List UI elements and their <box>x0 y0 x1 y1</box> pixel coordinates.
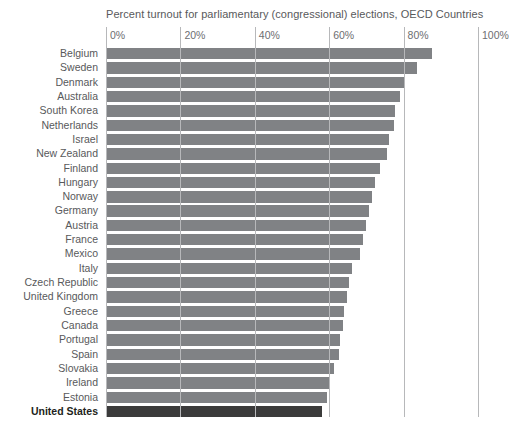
bar-track <box>106 363 531 374</box>
tick-label-80pct: 80% <box>404 29 429 41</box>
category-label-spain: Spain <box>0 349 98 360</box>
bar-row: Belgium <box>0 48 531 62</box>
bar-row: United Kingdom <box>0 291 531 305</box>
bar-row: Sweden <box>0 62 531 76</box>
chart-title: Percent turnout for parliamentary (congr… <box>106 7 483 21</box>
bar-spain <box>106 349 339 360</box>
bar-rows: BelgiumSwedenDenmarkAustraliaSouth Korea… <box>0 48 531 420</box>
bar-track <box>106 377 531 388</box>
bar-row: South Korea <box>0 105 531 119</box>
category-label-norway: Norway <box>0 191 98 202</box>
bar-track <box>106 62 531 73</box>
bar-track <box>106 320 531 331</box>
bar-track <box>106 277 531 288</box>
bar-netherlands <box>106 120 394 131</box>
bar-row: Australia <box>0 91 531 105</box>
bar-greece <box>106 306 344 317</box>
category-label-australia: Australia <box>0 91 98 102</box>
category-label-greece: Greece <box>0 306 98 317</box>
tick-label-60pct: 60% <box>329 29 354 41</box>
bar-portugal <box>106 334 340 345</box>
bar-sweden <box>106 62 417 73</box>
category-label-czech-republic: Czech Republic <box>0 277 98 288</box>
bar-row: Spain <box>0 349 531 363</box>
bar-track <box>106 48 531 59</box>
bar-row: Austria <box>0 220 531 234</box>
category-label-israel: Israel <box>0 134 98 145</box>
bar-estonia <box>106 392 327 403</box>
tick-label-20pct: 20% <box>180 29 205 41</box>
bar-track <box>106 392 531 403</box>
bar-israel <box>106 134 389 145</box>
bar-row: Netherlands <box>0 120 531 134</box>
tick-label-40pct: 40% <box>255 29 280 41</box>
bar-canada <box>106 320 343 331</box>
category-label-austria: Austria <box>0 220 98 231</box>
category-label-mexico: Mexico <box>0 248 98 259</box>
bar-row: Finland <box>0 163 531 177</box>
category-label-belgium: Belgium <box>0 48 98 59</box>
bar-track <box>106 148 531 159</box>
bar-finland <box>106 163 380 174</box>
bar-track <box>106 263 531 274</box>
bar-slovakia <box>106 363 334 374</box>
bar-denmark <box>106 77 405 88</box>
bar-row: Canada <box>0 320 531 334</box>
bar-austria <box>106 220 366 231</box>
bar-italy <box>106 263 352 274</box>
bar-track <box>106 349 531 360</box>
category-label-denmark: Denmark <box>0 77 98 88</box>
category-label-united-states: United States <box>0 406 98 417</box>
bar-row: Greece <box>0 306 531 320</box>
chart-container: Percent turnout for parliamentary (congr… <box>0 0 531 431</box>
bar-track <box>106 234 531 245</box>
category-label-united-kingdom: United Kingdom <box>0 291 98 302</box>
bar-row: Ireland <box>0 377 531 391</box>
category-label-germany: Germany <box>0 205 98 216</box>
bar-track <box>106 248 531 259</box>
bar-new-zealand <box>106 148 387 159</box>
bar-row: Slovakia <box>0 363 531 377</box>
category-label-slovakia: Slovakia <box>0 363 98 374</box>
bar-row: Mexico <box>0 248 531 262</box>
bar-row: Estonia <box>0 392 531 406</box>
category-label-italy: Italy <box>0 263 98 274</box>
bar-row: Denmark <box>0 77 531 91</box>
bar-track <box>106 205 531 216</box>
bar-united-states <box>106 406 322 417</box>
bar-track <box>106 191 531 202</box>
bar-row: Italy <box>0 263 531 277</box>
category-label-portugal: Portugal <box>0 334 98 345</box>
bar-hungary <box>106 177 375 188</box>
bar-track <box>106 306 531 317</box>
bar-track <box>106 334 531 345</box>
category-label-france: France <box>0 234 98 245</box>
bar-row: Norway <box>0 191 531 205</box>
bar-track <box>106 220 531 231</box>
bar-track <box>106 177 531 188</box>
bar-track <box>106 105 531 116</box>
bar-czech-republic <box>106 277 349 288</box>
bar-track <box>106 163 531 174</box>
category-label-canada: Canada <box>0 320 98 331</box>
bar-track <box>106 120 531 131</box>
bar-south-korea <box>106 105 395 116</box>
bar-row: Germany <box>0 205 531 219</box>
bar-row: Hungary <box>0 177 531 191</box>
bar-australia <box>106 91 400 102</box>
bar-row: New Zealand <box>0 148 531 162</box>
bar-ireland <box>106 377 330 388</box>
category-label-new-zealand: New Zealand <box>0 148 98 159</box>
bar-germany <box>106 205 369 216</box>
category-label-sweden: Sweden <box>0 62 98 73</box>
tick-label-0pct: 0% <box>106 29 125 41</box>
bar-belgium <box>106 48 432 59</box>
bar-france <box>106 234 363 245</box>
bar-track <box>106 406 531 417</box>
category-label-estonia: Estonia <box>0 392 98 403</box>
bar-row: Czech Republic <box>0 277 531 291</box>
category-label-netherlands: Netherlands <box>0 120 98 131</box>
category-label-finland: Finland <box>0 163 98 174</box>
bar-mexico <box>106 248 360 259</box>
category-label-ireland: Ireland <box>0 377 98 388</box>
